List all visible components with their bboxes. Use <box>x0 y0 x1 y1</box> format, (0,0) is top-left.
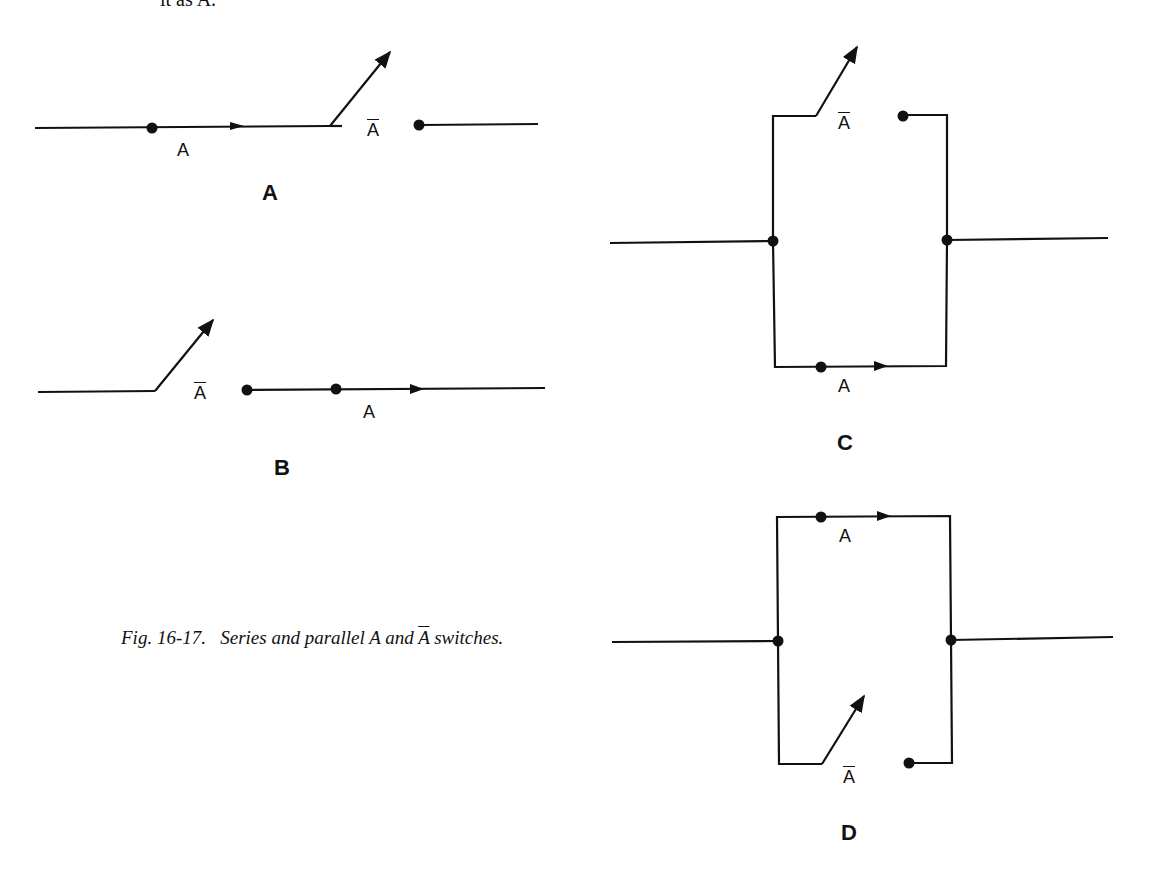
panel-label-d: D <box>841 820 857 846</box>
diagram-c <box>610 47 1108 371</box>
panel-label-b: B <box>274 455 290 481</box>
switch-label-a-bar: A <box>843 767 855 788</box>
figure-caption: Fig. 16-17. Series and parallel A and A … <box>121 627 503 649</box>
switch-label-a-bar: A <box>367 120 379 141</box>
switch-label-a-bar: A <box>838 113 850 134</box>
switch-label-a: A <box>363 402 375 423</box>
switch-label-a-bar: A <box>194 383 206 404</box>
panel-label-c: C <box>837 430 853 456</box>
switch-label-a: A <box>839 526 851 547</box>
panel-label-a: A <box>262 180 278 206</box>
caption-a-bar: A <box>418 627 429 648</box>
figure-number: Fig. 16-17. <box>121 627 206 648</box>
diagram-d <box>612 511 1113 764</box>
switch-label-a: A <box>838 376 850 397</box>
switch-diagrams <box>0 0 1150 872</box>
caption-text: Series and parallel A and <box>220 627 418 648</box>
switch-label-a: A <box>177 140 189 161</box>
caption-text-end: switches. <box>429 627 503 648</box>
diagram-b <box>38 320 545 394</box>
diagram-a <box>35 52 538 130</box>
